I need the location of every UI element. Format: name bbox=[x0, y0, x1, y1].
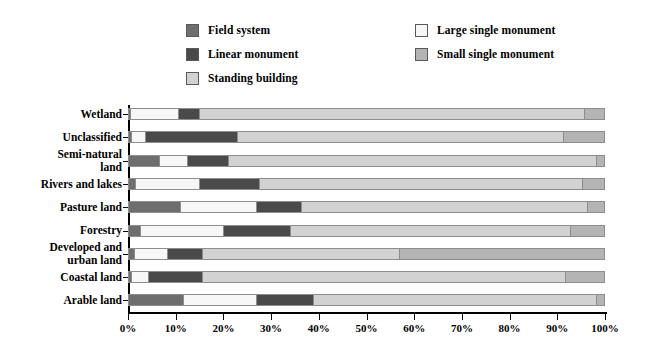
bar-segment bbox=[400, 249, 604, 259]
field-system-swatch bbox=[186, 24, 199, 37]
bar-segment bbox=[135, 249, 168, 259]
x-axis-line bbox=[128, 312, 607, 314]
bar-segment bbox=[257, 295, 314, 305]
x-axis-tick bbox=[510, 314, 511, 320]
bar-segment bbox=[257, 202, 302, 212]
x-axis-tick bbox=[605, 314, 606, 320]
bar-row bbox=[128, 108, 605, 120]
stacked-bar bbox=[128, 248, 605, 260]
legend-label: Standing building bbox=[208, 72, 298, 85]
bar-segment bbox=[141, 226, 224, 236]
x-axis-tick-label: 50% bbox=[356, 322, 378, 334]
bar-segment bbox=[588, 202, 604, 212]
bar-segment bbox=[129, 202, 181, 212]
bar-segment bbox=[203, 249, 400, 259]
x-axis-tick bbox=[319, 314, 320, 320]
x-axis-tick-label: 20% bbox=[212, 322, 234, 334]
legend-label: Large single monument bbox=[437, 24, 555, 37]
x-axis-tick-label: 100% bbox=[591, 322, 619, 334]
legend-item-linear-monument: Linear monument bbox=[186, 42, 298, 66]
bar-segment bbox=[136, 179, 200, 189]
bar-segment bbox=[132, 132, 146, 142]
legend-item-large-single-monument: Large single monument bbox=[415, 18, 555, 42]
large-single-monument-swatch bbox=[415, 24, 428, 37]
x-axis-tick-label: 30% bbox=[260, 322, 282, 334]
category-label: Semi-natural land bbox=[2, 148, 122, 173]
x-axis-tick bbox=[223, 314, 224, 320]
category-label: Unclassified bbox=[2, 131, 122, 144]
stacked-bar bbox=[128, 108, 605, 120]
bar-segment bbox=[129, 226, 141, 236]
bar-segment bbox=[566, 272, 604, 282]
bar-segment bbox=[131, 109, 179, 119]
chart-legend: Field system Linear monument Standing bu… bbox=[0, 0, 650, 100]
bar-segment bbox=[291, 226, 571, 236]
legend-label: Linear monument bbox=[208, 48, 298, 61]
legend-item-standing-building: Standing building bbox=[186, 66, 298, 90]
x-axis-tick-label: 40% bbox=[308, 322, 330, 334]
category-label: Arable land bbox=[2, 294, 122, 307]
bar-segment bbox=[132, 272, 149, 282]
bar-segment bbox=[597, 295, 604, 305]
bar-segment bbox=[571, 226, 604, 236]
linear-monument-swatch bbox=[186, 48, 199, 61]
bar-row bbox=[128, 225, 605, 237]
bar-segment bbox=[583, 179, 604, 189]
bar-segment bbox=[229, 156, 597, 166]
x-axis-tick-label: 90% bbox=[546, 322, 568, 334]
category-label: Developed and urban land bbox=[2, 241, 122, 266]
bar-segment bbox=[149, 272, 203, 282]
x-axis-tick-label: 80% bbox=[499, 322, 521, 334]
x-axis-tick bbox=[271, 314, 272, 320]
x-axis-tick bbox=[557, 314, 558, 320]
stacked-bar bbox=[128, 178, 605, 190]
bar-row bbox=[128, 248, 605, 260]
legend-item-small-single-monument: Small single monument bbox=[415, 42, 555, 66]
bar-segment bbox=[564, 132, 604, 142]
x-axis-tick-label: 10% bbox=[165, 322, 187, 334]
bar-segment bbox=[160, 156, 189, 166]
category-label: Pasture land bbox=[2, 201, 122, 214]
bar-segment bbox=[129, 295, 184, 305]
bar-segment bbox=[188, 156, 228, 166]
stacked-bar bbox=[128, 225, 605, 237]
chart-plot-area: 0%10%20%30%40%50%60%70%80%90%100% Wetlan… bbox=[0, 100, 650, 360]
x-axis-tick bbox=[367, 314, 368, 320]
category-label: Forestry bbox=[2, 224, 122, 237]
legend-column-left: Field system Linear monument Standing bu… bbox=[186, 18, 298, 90]
bar-row bbox=[128, 271, 605, 283]
bar-segment bbox=[585, 109, 604, 119]
bar-segment bbox=[238, 132, 563, 142]
bar-row bbox=[128, 178, 605, 190]
standing-building-swatch bbox=[186, 72, 199, 85]
small-single-monument-swatch bbox=[415, 48, 428, 61]
legend-label: Small single monument bbox=[437, 48, 554, 61]
stacked-bar bbox=[128, 294, 605, 306]
x-axis-tick-label: 0% bbox=[120, 322, 137, 334]
bar-segment bbox=[179, 109, 200, 119]
bar-segment bbox=[302, 202, 588, 212]
x-axis-tick-label: 70% bbox=[451, 322, 473, 334]
bar-row bbox=[128, 155, 605, 167]
category-label: Wetland bbox=[2, 108, 122, 121]
legend-item-field-system: Field system bbox=[186, 18, 298, 42]
x-axis-tick-label: 60% bbox=[403, 322, 425, 334]
legend-label: Field system bbox=[208, 24, 270, 37]
category-label: Coastal land bbox=[2, 271, 122, 284]
bar-segment bbox=[129, 179, 136, 189]
bar-segment bbox=[146, 132, 238, 142]
stacked-bar bbox=[128, 131, 605, 143]
bar-segment bbox=[181, 202, 257, 212]
x-axis-tick bbox=[462, 314, 463, 320]
bar-segment bbox=[260, 179, 583, 189]
stacked-bar bbox=[128, 201, 605, 213]
x-axis-tick bbox=[176, 314, 177, 320]
bar-segment bbox=[184, 295, 258, 305]
bar-segment bbox=[200, 109, 585, 119]
bar-row bbox=[128, 131, 605, 143]
bar-segment bbox=[129, 156, 160, 166]
bar-segment bbox=[597, 156, 604, 166]
x-axis-tick bbox=[128, 314, 129, 320]
x-axis-tick bbox=[414, 314, 415, 320]
legend-column-right: Large single monument Small single monum… bbox=[415, 18, 555, 66]
